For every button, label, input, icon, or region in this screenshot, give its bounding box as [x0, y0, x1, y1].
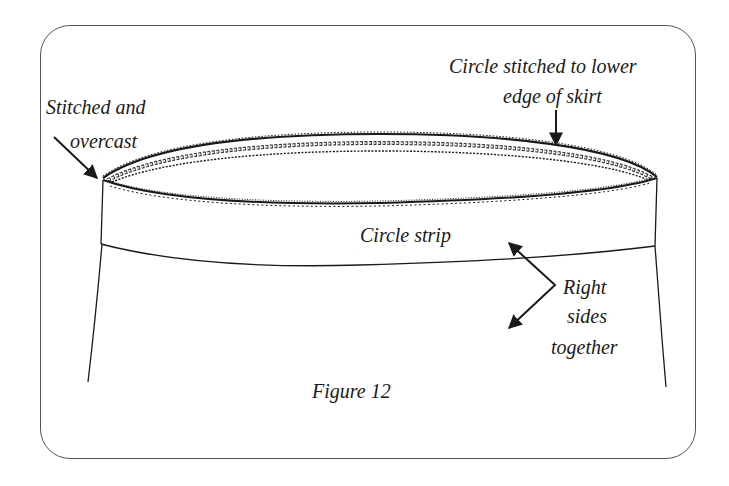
- strip-bottom-edge: [101, 244, 655, 266]
- label-edge-of-skirt: edge of skirt: [503, 85, 602, 107]
- strip-right-edge: [655, 178, 657, 246]
- label-stitched-and: Stitched and: [46, 96, 145, 118]
- figure-caption: Figure 12: [312, 380, 391, 402]
- label-sides: sides: [567, 305, 607, 327]
- skirt-right-side: [655, 246, 666, 387]
- label-overcast: overcast: [70, 130, 137, 152]
- label-right: Right: [563, 276, 606, 298]
- strip-left-edge: [101, 180, 103, 244]
- label-circle-stitched: Circle stitched to lower: [449, 55, 637, 77]
- skirt-left-side: [88, 244, 102, 382]
- label-circle-strip: Circle strip: [360, 224, 451, 246]
- hem-stitch-row: [108, 143, 652, 180]
- label-together: together: [551, 336, 618, 358]
